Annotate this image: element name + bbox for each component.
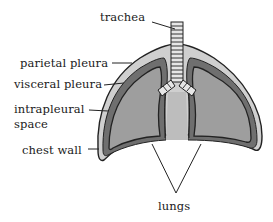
label-lungs: lungs bbox=[158, 200, 190, 212]
label-parietal-pleura: parietal pleura bbox=[20, 57, 108, 69]
pleura-diagram: trachea parietal pleura visceral pleura … bbox=[0, 0, 273, 222]
label-trachea: trachea bbox=[100, 11, 145, 23]
label-visceral-pleura: visceral pleura bbox=[14, 78, 102, 90]
mediastinum bbox=[166, 92, 188, 140]
lungs-leader bbox=[152, 144, 201, 193]
label-intrapleural-space-line1: intrapleural bbox=[14, 103, 85, 115]
label-intrapleural-space-line2: space bbox=[14, 118, 48, 130]
label-chest-wall: chest wall bbox=[22, 144, 82, 156]
